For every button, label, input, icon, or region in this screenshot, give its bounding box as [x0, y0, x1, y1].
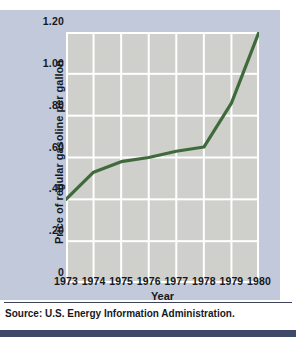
y-axis-ticks: 1.201.00.80.60.40.200 [0, 10, 64, 300]
x-tick-label: 1975 [109, 275, 133, 287]
x-tick-label: 1977 [164, 275, 188, 287]
x-tick-label: 1976 [137, 275, 161, 287]
y-tick-label: .20 [6, 224, 64, 236]
y-tick-label: 1.20 [6, 15, 64, 27]
source-text: Source: U.S. Energy Information Administ… [5, 308, 235, 319]
source-divider [4, 302, 292, 303]
figure-panel: Price of regular gasoline per gallon 1.2… [0, 10, 280, 300]
y-tick-label: .40 [6, 182, 64, 194]
plot-area [66, 32, 259, 283]
x-tick-label: 1974 [82, 275, 106, 287]
plot-svg [66, 32, 259, 283]
x-axis-ticks: 19731974197519761977197819791980 [66, 275, 259, 289]
x-tick-label: 1978 [192, 275, 216, 287]
horizontal-gridlines [66, 32, 259, 283]
y-tick-label: .60 [6, 141, 64, 153]
y-tick-label: .80 [6, 99, 64, 111]
x-tick-label: 1973 [54, 275, 78, 287]
chart-figure: Price of regular gasoline per gallon 1.2… [0, 0, 296, 337]
y-tick-label: 1.00 [6, 57, 64, 69]
x-tick-label: 1980 [247, 275, 271, 287]
x-tick-label: 1979 [220, 275, 244, 287]
bottom-accent-bar [0, 330, 296, 337]
figure-panel-margin [280, 10, 296, 300]
